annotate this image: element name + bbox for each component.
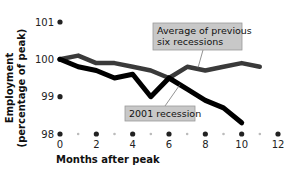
callout-average-leader-line	[198, 50, 203, 68]
x-tick-dot	[166, 131, 171, 136]
callout-2001-leader-line	[165, 85, 180, 106]
x-tick-label: 0	[57, 139, 63, 150]
y-tick-label: 99	[41, 91, 54, 102]
chart-canvas: Employment (percentage of peak) 98991001…	[0, 0, 292, 171]
x-minor-tick-dot	[150, 133, 153, 136]
x-axis: 024681012	[57, 131, 285, 150]
x-minor-tick-dot	[259, 133, 262, 136]
x-minor-tick-dot	[222, 133, 225, 136]
x-minor-tick-dot	[113, 133, 116, 136]
x-minor-tick-dot	[77, 133, 80, 136]
x-tick-dot	[203, 131, 208, 136]
x-tick-label: 12	[272, 139, 285, 150]
callout-average-text: Average of previous	[157, 25, 252, 36]
x-tick-dot	[275, 131, 280, 136]
y-tick-label: 98	[41, 129, 54, 140]
y-tick-dot	[57, 94, 62, 99]
x-tick-label: 8	[202, 139, 208, 150]
y-tick-label: 100	[35, 54, 54, 65]
y-tick-dot	[57, 131, 62, 136]
x-tick-label: 2	[93, 139, 99, 150]
x-minor-tick-dot	[186, 133, 189, 136]
callout-average-text: six recessions	[157, 36, 223, 47]
x-tick-dot	[239, 131, 244, 136]
callouts: Average of previoussix recessions2001 re…	[125, 23, 252, 121]
y-axis: 9899100101	[35, 17, 63, 140]
y-axis-title: Employment (percentage of peak)	[4, 29, 27, 148]
callout-2001-text: 2001 recession	[129, 108, 201, 119]
x-axis-title: Months after peak	[56, 154, 160, 165]
x-tick-label: 6	[166, 139, 172, 150]
y-tick-dot	[57, 19, 62, 24]
x-tick-label: 10	[235, 139, 248, 150]
x-tick-dot	[94, 131, 99, 136]
x-tick-dot	[130, 131, 135, 136]
y-tick-label: 101	[35, 17, 54, 28]
y-axis-title-line-2: (percentage of peak)	[16, 29, 27, 148]
x-tick-label: 4	[129, 139, 135, 150]
y-axis-title-line-1: Employment	[4, 53, 15, 124]
